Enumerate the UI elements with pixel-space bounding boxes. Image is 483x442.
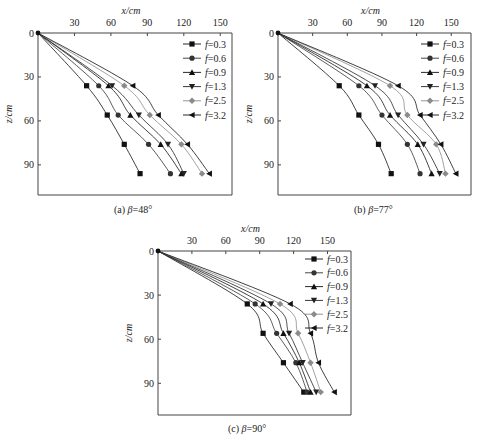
y-tick-label: 60 (144, 334, 154, 345)
legend-label: f=0.3 (327, 254, 348, 265)
x-tick-label: 120 (286, 235, 301, 246)
series-line (158, 251, 304, 392)
diamond-marker-icon (295, 330, 301, 336)
caption-b-prefix: (b) (354, 204, 368, 215)
legend-item: f=2.5 (305, 309, 348, 320)
x-tick-label: 60 (221, 235, 231, 246)
legend-item: f=0.6 (305, 267, 348, 278)
square-marker-icon (311, 256, 316, 261)
series-f-2-5 (158, 251, 324, 395)
series-f-1-3 (158, 251, 319, 395)
caption-b-value: =77° (373, 204, 393, 215)
triangle-left-marker-icon (311, 325, 317, 331)
legend-label: f=0.6 (327, 267, 348, 278)
caption-a: (a) β=48° (114, 204, 152, 215)
legend-label: f=1.3 (327, 295, 348, 306)
legend-label: f=3.2 (327, 323, 348, 334)
y-tick-label: 30 (144, 290, 154, 301)
y-tick-label: 90 (144, 378, 154, 389)
triangle-down-marker-icon (268, 301, 274, 307)
x-tick-label: 30 (187, 235, 197, 246)
legend-label: f=2.5 (327, 309, 348, 320)
series-line (158, 251, 321, 392)
x-tick-label: 90 (255, 235, 265, 246)
square-marker-icon (245, 301, 250, 306)
diamond-marker-icon (311, 311, 317, 317)
origin-marker (156, 249, 161, 254)
circle-marker-icon (253, 301, 258, 306)
x-axis-label: x/cm (240, 223, 260, 234)
legend-item: f=0.3 (305, 254, 348, 265)
circle-marker-icon (311, 270, 316, 275)
square-marker-icon (281, 360, 286, 365)
triangle-left-marker-icon (331, 389, 337, 395)
triangle-left-marker-icon (287, 301, 293, 307)
diamond-marker-icon (277, 301, 283, 307)
series-line (158, 251, 307, 392)
caption-c-prefix: (c) (228, 423, 242, 434)
chart-panel-c: 306090120150x/cm0306090z/cmf=0.3f=0.6f=0… (0, 0, 483, 442)
triangle-left-marker-icon (315, 360, 321, 366)
legend-label: f=0.9 (327, 281, 348, 292)
triangle-up-marker-icon (280, 330, 286, 336)
figure: 306090120150x/cm0306090z/cmf=0.3f=0.6f=0… (0, 0, 483, 442)
caption-c-value: =90° (247, 423, 267, 434)
series-f-0-3 (158, 251, 306, 395)
caption-a-value: =48° (133, 204, 153, 215)
circle-marker-icon (274, 331, 279, 336)
series-line (158, 251, 311, 392)
series-line (158, 251, 316, 392)
legend-item: f=0.9 (305, 281, 348, 292)
y-tick-label: 0 (149, 246, 154, 257)
y-axis-label: z/cm (123, 324, 134, 343)
diamond-marker-icon (307, 360, 313, 366)
square-marker-icon (260, 331, 265, 336)
caption-c: (c) β=90° (228, 423, 266, 434)
x-tick-label: 150 (320, 235, 335, 246)
legend-item: f=1.3 (305, 295, 348, 306)
triangle-up-marker-icon (260, 301, 266, 307)
triangle-down-marker-icon (286, 331, 292, 337)
triangle-left-marker-icon (307, 330, 313, 336)
caption-a-prefix: (a) (114, 204, 128, 215)
caption-b: (b) β=77° (354, 204, 393, 215)
series-line (158, 251, 334, 392)
